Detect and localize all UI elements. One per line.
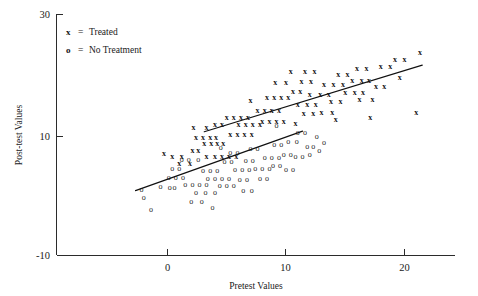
- data-point-x: x: [309, 77, 313, 86]
- data-point-x: x: [318, 90, 322, 99]
- data-point-x: x: [418, 48, 422, 57]
- legend-label-treated: Treated: [89, 27, 118, 37]
- data-point-x: x: [403, 55, 407, 64]
- data-point-x: x: [188, 159, 192, 168]
- scatter-plot-figure: 30 10 -10 0 10 20 Pretest Values Post-te…: [0, 0, 478, 296]
- data-point-x: x: [251, 120, 255, 129]
- data-point-o: o: [174, 173, 178, 182]
- data-point-o: o: [248, 144, 252, 153]
- x-tick-label-0: 0: [165, 262, 170, 273]
- data-point-o: o: [291, 165, 295, 174]
- data-point-o: o: [158, 182, 162, 191]
- data-point-o: o: [284, 165, 288, 174]
- data-point-x: x: [382, 82, 386, 91]
- legend-separator-o: =: [78, 45, 83, 55]
- data-point-x: x: [331, 80, 335, 89]
- data-point-x: x: [228, 130, 232, 139]
- data-point-x: x: [260, 117, 264, 126]
- data-point-x: x: [192, 123, 196, 132]
- data-point-x: x: [368, 113, 372, 122]
- data-point-x: x: [265, 93, 269, 102]
- data-point-x: x: [162, 149, 166, 158]
- data-point-x: x: [298, 87, 302, 96]
- data-point-o: o: [232, 181, 236, 190]
- y-axis-title: Post-test Values: [14, 105, 24, 166]
- data-point-o: o: [293, 152, 297, 161]
- legend-symbol-x: x: [66, 27, 71, 37]
- data-point-x: x: [346, 70, 350, 79]
- data-point-x: x: [336, 70, 340, 79]
- data-point-o: o: [149, 205, 153, 214]
- data-point-o: o: [213, 174, 217, 183]
- data-point-x: x: [302, 109, 306, 118]
- data-point-x: x: [232, 113, 236, 122]
- data-point-x: x: [322, 80, 326, 89]
- data-point-x: x: [225, 113, 229, 122]
- data-point-o: o: [271, 161, 275, 170]
- data-point-x: x: [248, 96, 252, 105]
- data-point-o: o: [194, 188, 198, 197]
- data-point-o: o: [167, 173, 171, 182]
- data-point-x: x: [320, 108, 324, 117]
- data-point-x: x: [244, 120, 248, 129]
- data-point-x: x: [190, 146, 194, 155]
- data-point-o: o: [322, 138, 326, 147]
- data-point-o: o: [213, 188, 217, 197]
- data-point-x: x: [296, 100, 300, 109]
- data-point-x: x: [361, 88, 365, 97]
- data-point-o: o: [282, 150, 286, 159]
- data-point-x: x: [365, 64, 369, 73]
- data-point-x: x: [250, 130, 254, 139]
- data-point-x: x: [293, 119, 297, 128]
- data-point-x: x: [170, 152, 174, 161]
- data-point-x: x: [357, 95, 361, 104]
- legend-label-no-treatment: No Treatment: [89, 45, 142, 55]
- legend-separator-x: =: [78, 27, 83, 37]
- data-point-o: o: [295, 137, 299, 146]
- data-point-o: o: [279, 140, 283, 149]
- data-point-o: o: [200, 197, 204, 206]
- data-point-o: o: [218, 181, 222, 190]
- data-point-x: x: [286, 93, 290, 102]
- data-point-x: x: [355, 64, 359, 73]
- data-point-o: o: [241, 186, 245, 195]
- x-axis-ticks: 0 10 20: [165, 249, 410, 273]
- data-point-x: x: [388, 62, 392, 71]
- data-point-x: x: [213, 152, 217, 161]
- data-point-o: o: [260, 164, 264, 173]
- data-point-o: o: [263, 153, 267, 162]
- data-markers-no-treatment: oooooooooooooooooooooooooooooooooooooooo…: [139, 121, 325, 214]
- data-point-o: o: [203, 188, 207, 197]
- data-point-o: o: [233, 165, 237, 174]
- data-point-x: x: [221, 139, 225, 148]
- data-point-x: x: [282, 117, 286, 126]
- data-point-o: o: [173, 183, 177, 192]
- data-point-x: x: [314, 100, 318, 109]
- y-tick-label-10: 10: [40, 131, 51, 142]
- data-point-o: o: [253, 164, 257, 173]
- data-point-x: x: [273, 78, 277, 87]
- x-tick-label-10: 10: [280, 262, 291, 273]
- data-point-x: x: [214, 133, 218, 142]
- data-point-o: o: [250, 186, 254, 195]
- y-tick-label-minus10: -10: [36, 250, 50, 261]
- data-point-o: o: [317, 146, 321, 155]
- data-point-x: x: [272, 93, 276, 102]
- data-point-x: x: [256, 106, 260, 115]
- data-point-o: o: [289, 150, 293, 159]
- data-point-x: x: [350, 76, 354, 85]
- data-point-o: o: [196, 155, 200, 164]
- data-point-o: o: [211, 203, 215, 212]
- data-point-x: x: [277, 106, 281, 115]
- data-point-x: x: [353, 88, 357, 97]
- data-point-o: o: [245, 175, 249, 184]
- data-point-x: x: [220, 120, 224, 129]
- data-point-o: o: [198, 180, 202, 189]
- data-point-o: o: [286, 137, 290, 146]
- data-point-x: x: [208, 133, 212, 142]
- x-axis-title: Pretest Values: [229, 281, 283, 291]
- data-point-x: x: [234, 152, 238, 161]
- data-point-o: o: [303, 128, 307, 137]
- data-point-x: x: [308, 90, 312, 99]
- data-point-o: o: [256, 144, 260, 153]
